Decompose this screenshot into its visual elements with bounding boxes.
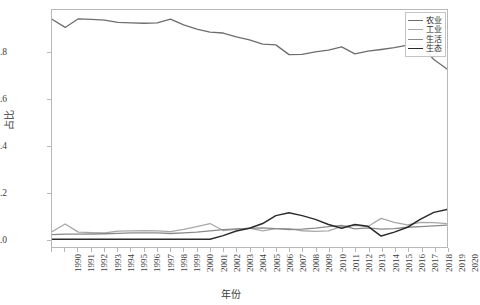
y-tick-label: 0.8 <box>0 47 7 57</box>
x-tick-label: 1994 <box>126 254 136 272</box>
x-tick-mark <box>435 248 436 252</box>
legend-item[interactable]: 生活 <box>408 35 442 44</box>
x-tick-mark <box>130 248 131 252</box>
x-tick-label: 2014 <box>391 254 401 272</box>
x-tick-label: 1997 <box>166 254 176 272</box>
x-tick-mark <box>64 248 65 252</box>
legend-item-label: 生活 <box>426 35 442 44</box>
legend-item[interactable]: 工业 <box>408 25 442 34</box>
x-tick-mark <box>144 248 145 252</box>
x-tick-label: 2009 <box>324 254 334 272</box>
x-tick-mark <box>250 248 251 252</box>
x-tick-mark <box>289 248 290 252</box>
legend-item-label: 农业 <box>426 16 442 25</box>
x-tick-mark <box>355 248 356 252</box>
series-line <box>52 19 447 69</box>
y-tick-label: 0.2 <box>0 188 7 198</box>
x-tick-label: 2016 <box>417 254 427 272</box>
legend-item[interactable]: 生态 <box>408 44 442 53</box>
legend-line-icon <box>408 29 423 30</box>
series-line <box>52 225 447 235</box>
x-tick-label: 2003 <box>245 254 255 272</box>
x-tick-label: 1992 <box>99 254 109 272</box>
legend-item[interactable]: 农业 <box>408 16 442 25</box>
x-tick-label: 1995 <box>139 254 149 272</box>
x-tick-label: 2013 <box>377 254 387 272</box>
x-tick-mark <box>183 248 184 252</box>
x-tick-label: 2011 <box>351 254 361 272</box>
x-tick-mark <box>223 248 224 252</box>
x-tick-mark <box>51 248 52 252</box>
legend-line-icon <box>408 39 423 40</box>
legend-line-icon <box>408 48 423 49</box>
x-tick-mark <box>276 248 277 252</box>
x-tick-mark <box>369 248 370 252</box>
x-tick-label: 2004 <box>258 254 268 272</box>
x-tick-label: 2001 <box>219 254 229 272</box>
y-tick-label: 0.4 <box>0 141 7 151</box>
x-axis-label: 年份 <box>0 286 462 301</box>
x-tick-mark <box>263 248 264 252</box>
plot-area <box>51 9 448 248</box>
x-tick-mark <box>395 248 396 252</box>
y-tick-label: 0.0 <box>0 235 7 245</box>
x-tick-mark <box>316 248 317 252</box>
x-tick-label: 1996 <box>152 254 162 272</box>
x-tick-mark <box>104 248 105 252</box>
x-tick-label: 1993 <box>113 254 123 272</box>
y-axis-label: 占比 <box>1 110 16 130</box>
series-line <box>52 218 447 232</box>
x-tick-label: 2015 <box>404 254 414 272</box>
x-tick-label: 1991 <box>86 254 96 272</box>
y-tick-label: 0.6 <box>0 94 7 104</box>
series-line <box>52 209 447 239</box>
x-tick-label: 2010 <box>338 254 348 272</box>
x-tick-mark <box>170 248 171 252</box>
x-tick-mark <box>157 248 158 252</box>
x-tick-mark <box>302 248 303 252</box>
x-tick-label: 2020 <box>470 254 480 272</box>
x-tick-mark <box>382 248 383 252</box>
chart-legend: 农业工业生活生态 <box>405 12 446 57</box>
x-tick-mark <box>210 248 211 252</box>
legend-item-label: 生态 <box>426 44 442 53</box>
x-tick-mark <box>408 248 409 252</box>
series-lines <box>52 10 447 247</box>
x-tick-label: 2002 <box>232 254 242 272</box>
x-tick-label: 1990 <box>73 254 83 272</box>
x-tick-mark <box>91 248 92 252</box>
x-tick-mark <box>197 248 198 252</box>
x-tick-mark <box>448 248 449 252</box>
x-tick-label: 2008 <box>311 254 321 272</box>
x-tick-mark <box>117 248 118 252</box>
x-tick-mark <box>342 248 343 252</box>
x-tick-label: 2018 <box>444 254 454 272</box>
x-tick-label: 2000 <box>205 254 215 272</box>
x-tick-label: 2019 <box>457 254 467 272</box>
x-tick-mark <box>77 248 78 252</box>
legend-item-label: 工业 <box>426 25 442 34</box>
x-tick-mark <box>329 248 330 252</box>
x-tick-label: 2017 <box>430 254 440 272</box>
x-tick-label: 2006 <box>285 254 295 272</box>
x-tick-label: 2005 <box>272 254 282 272</box>
x-tick-label: 2007 <box>298 254 308 272</box>
x-tick-label: 1999 <box>192 254 202 272</box>
x-tick-label: 2012 <box>364 254 374 272</box>
legend-line-icon <box>408 20 423 21</box>
x-tick-mark <box>236 248 237 252</box>
x-tick-mark <box>422 248 423 252</box>
x-tick-label: 1998 <box>179 254 189 272</box>
